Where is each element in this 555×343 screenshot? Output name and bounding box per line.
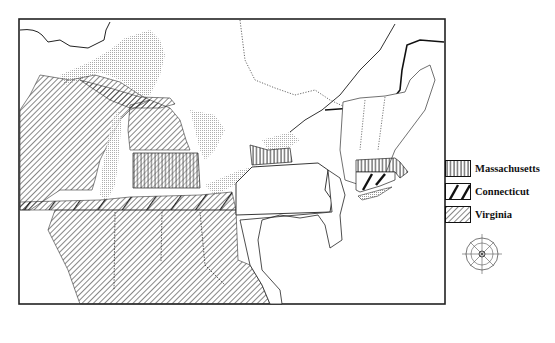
- legend-item-connecticut: Connecticut: [445, 180, 555, 202]
- pennsylvania: [236, 163, 332, 215]
- compass-rose-icon: [462, 234, 502, 274]
- legend-label: Massachusetts: [475, 163, 540, 174]
- bold-diagonal-swatch-icon: [445, 183, 471, 200]
- map-legend: Massachusetts Connecticut Virginia: [445, 157, 555, 226]
- virginia-south: [48, 210, 270, 304]
- vertical-lines-swatch-icon: [445, 160, 471, 177]
- legend-label: Connecticut: [475, 186, 529, 197]
- legend-label: Virginia: [475, 209, 512, 220]
- legend-item-massachusetts: Massachusetts: [445, 157, 555, 179]
- michigan-overlap-virg: [133, 153, 200, 188]
- legend-item-virginia: Virginia: [445, 203, 555, 225]
- fine-diagonal-swatch-icon: [445, 206, 471, 223]
